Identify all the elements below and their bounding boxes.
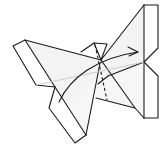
right-wing-edge-strip (144, 5, 158, 118)
paper-faces (25, 5, 144, 135)
origami-butterfly-diagram (0, 0, 166, 154)
